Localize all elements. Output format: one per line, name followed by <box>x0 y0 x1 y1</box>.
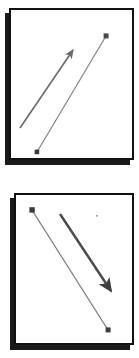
top-segment-end-marker <box>104 33 109 38</box>
top-arrow-vector <box>20 50 73 128</box>
top-panel-vectors <box>11 10 132 158</box>
bottom-panel <box>0 185 139 358</box>
bottom-segment-end-marker <box>106 327 111 332</box>
top-panel <box>0 0 139 170</box>
bottom-panel-frame <box>14 193 134 345</box>
bottom-stray-dot <box>96 215 98 217</box>
bottom-panel-plot-area <box>16 195 132 343</box>
top-segment-start-marker <box>35 150 40 155</box>
figure-container <box>0 0 139 358</box>
bottom-panel-vectors <box>16 195 132 343</box>
bottom-segment-start-marker <box>29 207 34 212</box>
top-panel-frame <box>9 8 134 160</box>
top-panel-plot-area <box>11 10 132 158</box>
bottom-arrow-vector <box>60 214 111 291</box>
